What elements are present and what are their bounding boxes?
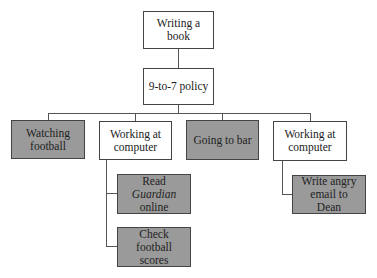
node-label-line2: online [122,201,186,214]
node-9-to-7-policy: 9-to-7 policy [143,68,214,105]
connector-horizontal-bus [48,113,311,114]
connector-policy-bus [178,104,179,113]
connector-left-branch-2 [106,246,117,247]
node-label-line1: Write angry [297,175,361,188]
node-check-football-scores: Check football scores [117,227,191,267]
node-label-line1: Watching [26,127,70,140]
node-write-angry-email: Write angry email to Dean [292,175,366,214]
connector-drop-2 [135,113,136,121]
node-label-line2: scores [122,254,186,267]
node-working-at-computer-left: Working at computer [99,121,172,160]
node-label-line1: Read Guardian [122,175,186,201]
node-watching-football: Watching football [11,120,85,159]
node-label-line2: email to Dean [297,188,361,214]
node-label-line1: Working at [110,128,161,141]
node-read-guardian-online: Read Guardian online [117,174,191,214]
label-italic-title: Guardian [132,188,176,200]
node-label-line1: Check football [122,228,186,254]
node-going-to-bar: Going to bar [186,120,259,160]
node-label-line1: Working at [284,128,335,141]
node-label: Writing a book [148,17,209,43]
connector-drop-3 [222,113,223,120]
node-writing-a-book: Writing a book [143,11,214,49]
connector-drop-4 [310,113,311,121]
node-working-at-computer-right: Working at computer [273,121,347,161]
label-prefix: Read [142,175,166,187]
node-label: 9-to-7 policy [149,80,209,93]
connector-left-branch-1 [106,193,117,194]
node-label: Going to bar [193,134,251,147]
node-label-line2: computer [284,141,335,154]
connector-right-branch [282,194,292,195]
node-label-line2: football [26,140,70,153]
connector-root-policy [178,48,179,68]
connector-right-vertical [282,160,283,195]
node-label-line2: computer [110,141,161,154]
connector-drop-1 [48,113,49,120]
connector-left-vertical [106,159,107,247]
